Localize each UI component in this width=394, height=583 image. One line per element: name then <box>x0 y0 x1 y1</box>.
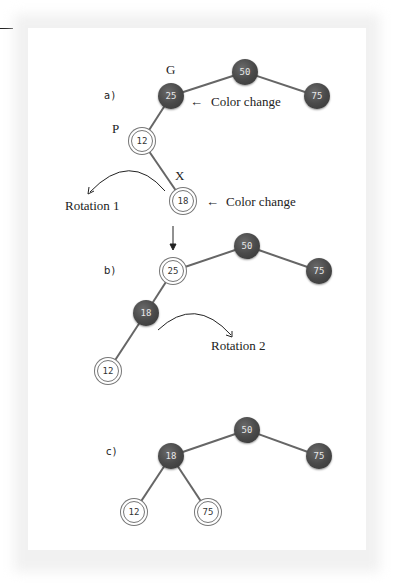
node-b-12: 12 <box>97 360 119 382</box>
node-a-18: 18 <box>172 190 194 212</box>
rotation1-arc <box>90 171 165 192</box>
part-label-c: c) <box>106 446 117 457</box>
node-a-12: 12 <box>131 130 153 152</box>
rotation2-label: Rotation 2 <box>211 338 266 354</box>
part-label-b: b) <box>104 265 116 276</box>
node-c-75: 75 <box>306 443 332 469</box>
tag-p: P <box>112 121 119 137</box>
node-c-18: 18 <box>158 443 184 469</box>
color-change-arrow-2: ← <box>206 194 219 210</box>
node-c-50: 50 <box>234 417 260 443</box>
node-a-75: 75 <box>304 83 330 109</box>
node-c-75b: 75 <box>197 501 219 523</box>
down-arrowhead <box>170 244 176 250</box>
node-b-18: 18 <box>133 300 159 326</box>
color-change-label-1: Color change <box>211 94 281 110</box>
rotation2-arrowhead <box>226 331 232 337</box>
node-b-25: 25 <box>162 260 184 282</box>
color-change-arrow-1: ← <box>190 94 203 110</box>
node-a-50: 50 <box>232 59 258 85</box>
node-b-50: 50 <box>234 233 260 259</box>
part-label-a: a) <box>104 90 116 101</box>
node-a-25: 25 <box>158 83 184 109</box>
node-c-12: 12 <box>123 501 145 523</box>
tag-x: X <box>175 168 184 184</box>
edges-layer <box>0 0 394 583</box>
rotation1-label: Rotation 1 <box>65 198 120 214</box>
color-change-label-2: Color change <box>226 194 296 210</box>
rotation2-arc <box>158 314 231 335</box>
node-b-75: 75 <box>306 258 332 284</box>
tag-g: G <box>166 62 175 78</box>
